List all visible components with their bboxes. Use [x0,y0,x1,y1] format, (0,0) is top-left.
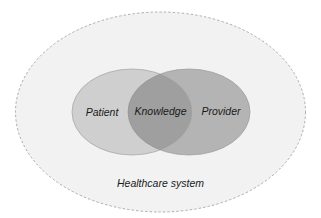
knowledge-label: Knowledge [135,105,187,117]
venn-diagram: Patient Knowledge Provider Healthcare sy… [0,0,321,218]
healthcare-system-label: Healthcare system [117,177,204,189]
patient-label: Patient [86,106,120,118]
provider-label: Provider [201,105,241,117]
